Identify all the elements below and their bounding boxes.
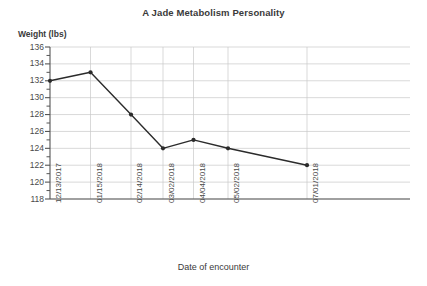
data-point-markers [48,70,309,167]
y-tick-label: 120 [18,177,44,187]
x-tick-label: 07/01/2018 [311,163,320,203]
data-point [226,146,230,150]
data-point [129,112,133,116]
data-point [305,163,309,167]
y-tick-label: 122 [18,160,44,170]
x-tick-label: 03/02/2018 [167,163,176,203]
data-series-line [50,72,307,165]
data-point [161,146,165,150]
y-tick-label: 134 [18,58,44,68]
y-tick-label: 136 [18,42,44,52]
data-point [88,70,92,74]
x-tick-label: 05/02/2018 [232,163,241,203]
horizontal-gridlines [50,47,410,199]
y-tick-label: 126 [18,126,44,136]
data-point [191,138,195,142]
x-axis-title: Date of encounter [0,262,427,272]
y-tick-label: 118 [18,194,44,204]
y-tick-label: 130 [18,92,44,102]
x-tick-label: 04/04/2018 [198,163,207,203]
data-point [48,79,52,83]
x-tick-label: 02/14/2018 [135,163,144,203]
x-tick-label: 12/13/2017 [54,163,63,203]
x-tick-label: 01/15/2018 [95,163,104,203]
y-tick-label: 132 [18,75,44,85]
line-chart: A Jade Metabolism Personality Weight (lb… [0,0,427,286]
plot-area [0,0,427,286]
y-tick-label: 128 [18,109,44,119]
y-tick-label: 124 [18,143,44,153]
